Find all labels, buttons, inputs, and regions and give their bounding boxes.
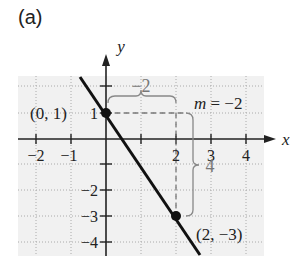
point2-label: (2, −3) [196, 225, 242, 244]
y-tick-label: −3 [81, 208, 98, 225]
y-axis-label: y [115, 37, 125, 56]
y-tick-label: −2 [81, 182, 98, 199]
y-axis-arrow-icon [102, 54, 110, 66]
x-tick-label: 4 [242, 147, 250, 164]
point-0-1 [101, 108, 111, 118]
x-tick-label: 2 [172, 147, 180, 164]
x-tick-label: −2 [27, 147, 44, 164]
slope-label: m = −2 [194, 94, 242, 113]
x-axis-label: x [281, 130, 290, 149]
rise-label: 4 [206, 156, 215, 176]
x-axis-arrow-icon [264, 135, 276, 143]
point1-label: (0, 1) [30, 104, 67, 123]
y-tick-label: 1 [90, 105, 98, 122]
point-2-m3 [171, 211, 181, 221]
run-label: −2 [131, 76, 150, 96]
x-tick-label: −1 [60, 147, 77, 164]
graph: y x −2 −1 2 3 4 1 −2 −3 −4 (0, 1) (2, −3… [0, 0, 298, 272]
y-tick-label: −4 [81, 234, 98, 251]
